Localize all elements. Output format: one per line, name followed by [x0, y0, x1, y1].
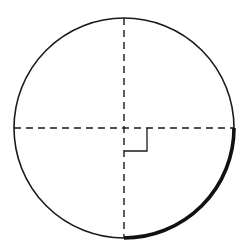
- right-angle-marker: [124, 128, 147, 151]
- highlighted-arc: [124, 128, 234, 238]
- circle-diagram: [0, 0, 247, 252]
